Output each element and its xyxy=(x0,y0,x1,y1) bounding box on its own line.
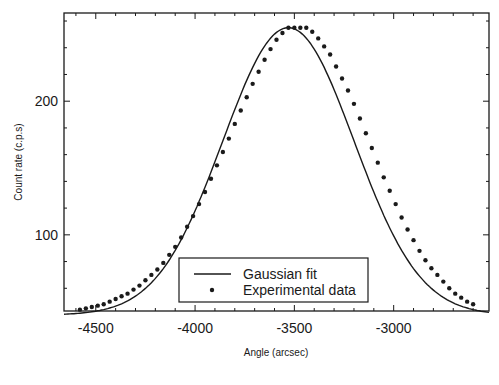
data-point xyxy=(376,160,380,164)
data-point xyxy=(119,294,123,298)
data-point xyxy=(137,283,141,287)
data-point xyxy=(435,273,439,277)
data-point xyxy=(358,116,362,120)
data-point xyxy=(191,214,195,218)
x-tick-label: -4000 xyxy=(177,320,213,336)
x-tick-label: -4500 xyxy=(78,320,114,336)
data-point xyxy=(197,202,201,206)
x-tick-label: -3000 xyxy=(376,320,412,336)
y-tick-label: 200 xyxy=(35,93,59,109)
data-point xyxy=(149,273,153,277)
data-point xyxy=(131,287,135,291)
data-point xyxy=(215,163,219,167)
data-point xyxy=(96,303,100,307)
data-point xyxy=(447,286,451,290)
data-point xyxy=(286,25,290,29)
data-point xyxy=(304,25,308,29)
data-point xyxy=(405,227,409,231)
data-point xyxy=(155,267,159,271)
data-point xyxy=(245,95,249,99)
data-point xyxy=(322,44,326,48)
gaussian-fit-chart: -4500-4000-3500-3000 100200 Angle (arcse… xyxy=(0,0,499,385)
data-point xyxy=(239,108,243,112)
data-point xyxy=(78,307,82,311)
data-point xyxy=(262,58,266,62)
data-point xyxy=(298,25,302,29)
data-point xyxy=(453,291,457,295)
data-point xyxy=(423,258,427,262)
data-point xyxy=(429,266,433,270)
data-point xyxy=(370,146,374,150)
data-point xyxy=(388,189,392,193)
data-point xyxy=(334,64,338,68)
legend: Gaussian fit Experimental data xyxy=(179,258,368,302)
legend-point-swatch xyxy=(210,288,214,292)
data-point xyxy=(250,82,254,86)
data-point xyxy=(417,249,421,253)
data-point xyxy=(316,36,320,40)
data-point xyxy=(328,52,332,56)
data-point xyxy=(280,31,284,35)
data-point xyxy=(346,88,350,92)
data-point xyxy=(227,136,231,140)
data-point xyxy=(107,299,111,303)
data-point xyxy=(161,261,165,265)
y-axis-title: Count rate (c.p.s) xyxy=(13,123,24,200)
data-point xyxy=(143,278,147,282)
data-point xyxy=(233,122,237,126)
data-point xyxy=(185,225,189,229)
x-tick-labels: -4500-4000-3500-3000 xyxy=(78,320,412,336)
data-point xyxy=(203,190,207,194)
data-point xyxy=(393,202,397,206)
data-point xyxy=(465,299,469,303)
data-point xyxy=(411,238,415,242)
data-point xyxy=(459,295,463,299)
data-point xyxy=(84,306,88,310)
data-point xyxy=(399,215,403,219)
data-point xyxy=(352,102,356,106)
legend-label-experimental-data: Experimental data xyxy=(243,282,356,298)
data-point xyxy=(173,245,177,249)
data-point xyxy=(471,302,475,306)
data-point xyxy=(209,177,213,181)
data-point xyxy=(90,305,94,309)
data-point xyxy=(382,175,386,179)
data-point xyxy=(292,25,296,29)
data-point xyxy=(274,38,278,42)
data-point xyxy=(113,297,117,301)
data-point xyxy=(179,235,183,239)
data-point xyxy=(310,30,314,34)
data-point xyxy=(364,131,368,135)
x-tick-label: -3500 xyxy=(276,320,312,336)
y-tick-labels: 100200 xyxy=(35,93,59,243)
data-point xyxy=(340,76,344,80)
data-point xyxy=(221,150,225,154)
y-tick-label: 100 xyxy=(35,227,59,243)
data-point xyxy=(268,47,272,51)
data-point xyxy=(441,279,445,283)
data-point xyxy=(167,253,171,257)
data-point xyxy=(125,291,129,295)
data-point xyxy=(256,70,260,74)
x-axis-title: Angle (arcsec) xyxy=(244,347,308,358)
data-point xyxy=(102,302,106,306)
legend-label-gaussian-fit: Gaussian fit xyxy=(243,266,317,282)
